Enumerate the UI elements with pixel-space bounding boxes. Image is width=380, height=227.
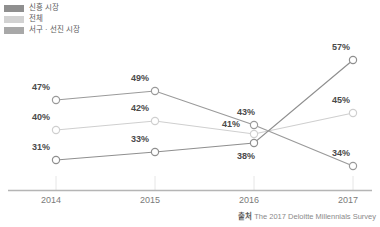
data-label-emerging-2016: 38% xyxy=(237,152,255,161)
source-attribution: 출처 The 2017 Deloitte Millennials Survey xyxy=(238,210,376,221)
data-label-total-2016: 41% xyxy=(222,120,240,129)
x-tick-2014: 2014 xyxy=(41,196,61,205)
x-tick-2017: 2017 xyxy=(338,196,358,205)
x-tick-2016: 2016 xyxy=(239,196,259,205)
data-label-western-2017: 34% xyxy=(332,149,350,158)
data-label-western-2015: 49% xyxy=(131,74,149,83)
plot-svg xyxy=(0,0,380,227)
source-prefix: 출처 xyxy=(238,212,252,221)
data-label-emerging-2015: 33% xyxy=(131,135,149,144)
data-label-emerging-2017: 57% xyxy=(332,43,350,52)
source-text: The 2017 Deloitte Millennials Survey xyxy=(254,212,376,221)
x-tick-2015: 2015 xyxy=(140,196,160,205)
data-label-emerging-2014: 31% xyxy=(32,143,50,152)
gridlines xyxy=(56,176,353,190)
chart-container: 신흥 시장 전체 서구 · 선진 시장 xyxy=(0,0,380,227)
series-line-total xyxy=(52,109,356,137)
data-label-total-2014: 40% xyxy=(32,113,50,122)
data-label-total-2015: 42% xyxy=(131,104,149,113)
data-label-total-2017: 45% xyxy=(332,96,350,105)
plot-area xyxy=(0,0,380,227)
data-label-western-2014: 47% xyxy=(32,83,50,92)
data-label-western-2016: 43% xyxy=(237,108,255,117)
series-line-western xyxy=(52,87,356,169)
series-line-emerging xyxy=(52,56,356,163)
